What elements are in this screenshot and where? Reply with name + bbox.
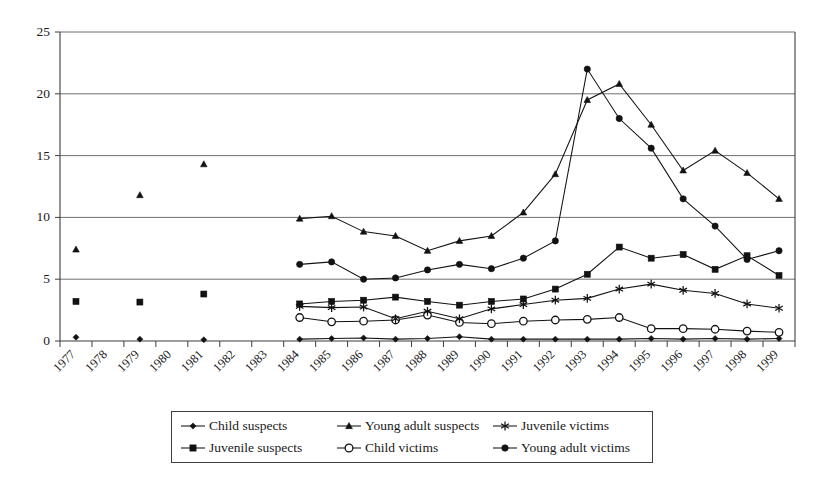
series-line-5 — [300, 69, 779, 279]
x-tick-label-1992: 1992 — [530, 347, 558, 375]
data-point-marker — [456, 302, 462, 308]
data-point-marker — [584, 271, 590, 277]
x-tick-label-1991: 1991 — [498, 347, 526, 375]
x-tick-label-1998: 1998 — [722, 347, 750, 375]
legend-item-juvenile-victims[interactable]: Juvenile victims — [492, 415, 646, 437]
x-axis-tick-labels: 1977197819791980198119821983198419851986… — [51, 347, 782, 375]
y-axis-ticks — [55, 32, 60, 341]
data-point-marker — [520, 317, 528, 325]
data-point-marker — [488, 266, 494, 272]
data-point-marker — [361, 335, 367, 341]
data-point-marker — [552, 238, 558, 244]
data-point-marker — [647, 325, 655, 333]
data-point-marker — [488, 232, 495, 238]
data-point-marker — [360, 317, 368, 325]
x-tick-label-1989: 1989 — [434, 347, 462, 375]
y-axis-tick-labels: 0510152025 — [37, 24, 51, 348]
data-point-marker — [456, 334, 462, 340]
x-tick-label-1977: 1977 — [51, 347, 79, 375]
x-tick-label-1999: 1999 — [754, 347, 782, 375]
data-point-marker — [456, 261, 462, 267]
legend-label: Young adult suspects — [365, 419, 479, 433]
legend-marker-square-icon — [180, 441, 206, 455]
x-tick-label-1982: 1982 — [210, 347, 238, 375]
legend-label: Juvenile suspects — [209, 441, 302, 455]
data-point-marker — [328, 213, 335, 219]
x-tick-label-1988: 1988 — [402, 347, 430, 375]
x-tick-label-1978: 1978 — [82, 347, 110, 375]
series-line-1 — [300, 247, 779, 305]
data-point-marker — [679, 325, 687, 333]
data-point-marker — [743, 327, 751, 335]
data-point-marker — [712, 147, 719, 153]
y-tick-label-0: 0 — [43, 333, 50, 348]
data-point-marker — [393, 294, 399, 300]
x-tick-label-1980: 1980 — [146, 347, 174, 375]
data-point-marker — [712, 266, 718, 272]
data-point-marker — [712, 223, 718, 229]
legend-label: Young adult victims — [521, 441, 630, 455]
data-point-marker — [616, 244, 622, 250]
x-tick-label-1993: 1993 — [562, 347, 590, 375]
data-point-marker — [201, 291, 207, 297]
data-point-marker — [520, 255, 526, 261]
x-tick-label-1996: 1996 — [658, 347, 686, 375]
data-point-marker — [488, 320, 496, 328]
x-tick-label-1986: 1986 — [338, 347, 366, 375]
x-tick-label-1981: 1981 — [178, 347, 206, 375]
data-point-marker — [424, 267, 430, 273]
data-point-marker — [360, 228, 367, 234]
data-point-marker — [744, 256, 750, 262]
data-point-marker — [584, 97, 591, 103]
data-point-marker — [488, 298, 494, 304]
data-point-marker — [392, 275, 398, 281]
legend-label: Child victims — [365, 441, 438, 455]
series-line-4 — [300, 284, 779, 319]
legend-item-young-adult-victims[interactable]: Young adult victims — [492, 437, 646, 459]
y-tick-label-25: 25 — [37, 24, 51, 39]
data-point-marker — [680, 251, 686, 257]
data-point-marker — [137, 192, 144, 198]
data-point-marker — [616, 115, 622, 121]
data-point-marker — [73, 298, 79, 304]
plot-frame — [60, 32, 795, 341]
data-point-marker — [201, 161, 208, 167]
x-tick-label-1994: 1994 — [594, 347, 622, 375]
data-point-marker — [552, 316, 560, 324]
legend-item-child-suspects[interactable]: Child suspects — [180, 415, 334, 437]
legend-marker-circle-open-icon — [336, 441, 362, 455]
data-point-marker — [648, 255, 654, 261]
series-line-3 — [300, 315, 779, 332]
data-point-marker — [584, 316, 592, 324]
legend-item-young-adult-suspects[interactable]: Young adult suspects — [336, 415, 490, 437]
series-line-2 — [300, 84, 779, 251]
legend-item-child-victims[interactable]: Child victims — [336, 437, 490, 459]
legend-marker-star-icon — [492, 419, 518, 433]
data-point-marker — [648, 145, 654, 151]
data-point-marker — [615, 314, 623, 322]
data-point-marker — [776, 272, 782, 278]
legend-marker-diamond-icon — [180, 419, 206, 433]
legend-marker-circle-filled-icon — [492, 441, 518, 455]
x-tick-label-1985: 1985 — [306, 347, 334, 375]
data-point-marker — [744, 169, 751, 175]
x-tick-label-1979: 1979 — [114, 347, 142, 375]
y-tick-label-20: 20 — [37, 86, 51, 101]
data-point-marker — [711, 326, 719, 334]
x-tick-label-1984: 1984 — [274, 347, 302, 375]
data-point-marker — [616, 80, 623, 86]
legend-item-juvenile-suspects[interactable]: Juvenile suspects — [180, 437, 334, 459]
data-point-marker — [584, 66, 590, 72]
x-tick-label-1987: 1987 — [370, 347, 398, 375]
data-point-marker — [775, 329, 783, 337]
x-tick-label-1995: 1995 — [626, 347, 654, 375]
data-point-marker — [425, 298, 431, 304]
x-tick-label-1990: 1990 — [466, 347, 494, 375]
chart-container: 0510152025 19771978197919801981198219831… — [0, 0, 823, 478]
chart-legend: Child suspectsYoung adult suspectsJuveni… — [171, 411, 653, 463]
data-point-marker — [552, 171, 559, 177]
data-point-marker — [297, 261, 303, 267]
data-point-marker — [680, 196, 686, 202]
data-point-marker — [296, 314, 304, 322]
data-point-marker — [328, 259, 334, 265]
